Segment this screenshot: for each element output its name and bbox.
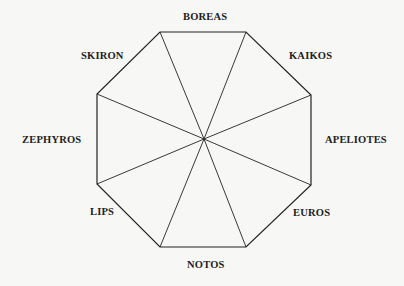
wind-label-skiron: SKIRON	[81, 50, 124, 62]
spoke-line	[204, 139, 311, 185]
spoke-line	[204, 32, 246, 139]
wind-label-notos: NOTOS	[187, 259, 225, 271]
wind-label-zephyros: ZEPHYROS	[22, 134, 81, 146]
spoke-line	[204, 95, 311, 139]
wind-label-euros: EUROS	[293, 207, 330, 219]
wind-label-lips: LIPS	[90, 206, 114, 218]
wind-label-apeliotes: APELIOTES	[325, 134, 387, 146]
wind-label-kaikos: KAIKOS	[289, 50, 332, 62]
wind-label-boreas: BOREAS	[183, 11, 227, 23]
spoke-line	[204, 139, 246, 247]
